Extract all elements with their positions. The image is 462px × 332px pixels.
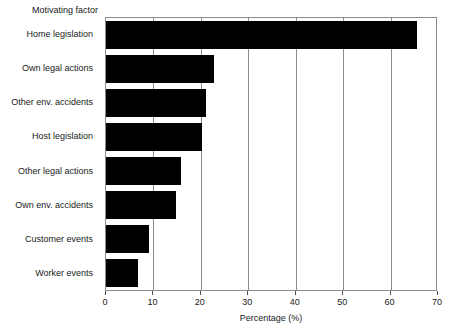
bar bbox=[106, 89, 206, 117]
x-tick-label: 10 bbox=[147, 296, 157, 308]
x-tick-mark bbox=[105, 291, 106, 295]
plot-area bbox=[105, 17, 437, 291]
category-axis-labels: Home legislation Own legal actions Other… bbox=[0, 17, 99, 291]
x-tick-label: 70 bbox=[432, 296, 442, 308]
x-tick-mark bbox=[200, 291, 201, 295]
x-tick-label: 50 bbox=[337, 296, 347, 308]
x-tick-mark bbox=[437, 291, 438, 295]
category-label: Host legislation bbox=[0, 120, 99, 154]
category-label: Home legislation bbox=[0, 17, 99, 51]
bar-chart: Motivating factor Home legislation Own l… bbox=[0, 0, 462, 332]
category-label: Worker events bbox=[0, 257, 99, 291]
x-tick-mark bbox=[342, 291, 343, 295]
x-tick-label: 60 bbox=[385, 296, 395, 308]
category-label: Other legal actions bbox=[0, 154, 99, 188]
x-tick-mark bbox=[390, 291, 391, 295]
bar-row bbox=[106, 222, 436, 256]
bar-row bbox=[106, 86, 436, 120]
x-tick-mark bbox=[152, 291, 153, 295]
bar bbox=[106, 191, 176, 219]
y-axis-title: Motivating factor bbox=[0, 5, 98, 16]
category-label: Own env. accidents bbox=[0, 188, 99, 222]
category-label: Own legal actions bbox=[0, 51, 99, 85]
bar bbox=[106, 21, 417, 49]
x-tick-mark bbox=[247, 291, 248, 295]
bar bbox=[106, 123, 202, 151]
bar-row bbox=[106, 154, 436, 188]
x-axis-tick-labels: 010203040506070 bbox=[105, 296, 437, 310]
bar bbox=[106, 55, 214, 83]
bars-layer bbox=[106, 18, 436, 290]
x-tick-label: 0 bbox=[102, 296, 107, 308]
bar-row bbox=[106, 120, 436, 154]
x-axis-title: Percentage (%) bbox=[105, 312, 437, 324]
bar bbox=[106, 157, 181, 185]
x-tick-mark bbox=[295, 291, 296, 295]
bar-row bbox=[106, 18, 436, 52]
x-tick-label: 30 bbox=[242, 296, 252, 308]
x-tick-label: 40 bbox=[290, 296, 300, 308]
category-label: Customer events bbox=[0, 223, 99, 257]
category-label: Other env. accidents bbox=[0, 86, 99, 120]
bar-row bbox=[106, 188, 436, 222]
bar bbox=[106, 225, 149, 253]
bar-row bbox=[106, 52, 436, 86]
x-tick-label: 20 bbox=[195, 296, 205, 308]
bar bbox=[106, 259, 138, 287]
bar-row bbox=[106, 256, 436, 290]
